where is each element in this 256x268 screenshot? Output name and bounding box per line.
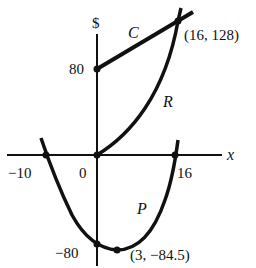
- point-root-neg10: [43, 152, 50, 159]
- point-p-intercept: [94, 241, 101, 248]
- y-axis-label: $: [92, 15, 100, 31]
- annotation-vertex: (3, −84.5): [130, 247, 190, 264]
- curve-label-r: R: [162, 93, 173, 110]
- point-vertex: [114, 247, 121, 254]
- point-intersection: [175, 18, 182, 25]
- x-axis-label: x: [226, 146, 234, 163]
- tick-16: 16: [177, 165, 193, 181]
- tick-0: 0: [79, 165, 87, 181]
- revenue-curve-r: [97, 8, 181, 155]
- tick-neg10: −10: [8, 165, 31, 181]
- point-origin: [94, 152, 101, 159]
- curve-label-p: P: [136, 200, 147, 217]
- tick-neg80: −80: [55, 245, 78, 261]
- tick-80: 80: [69, 61, 84, 77]
- annotation-intersection: (16, 128): [184, 27, 239, 44]
- cost-revenue-profit-chart: $ x C R P 80 −80 −10 0 16 (16, 128) (3, …: [0, 0, 256, 268]
- curve-label-c: C: [128, 24, 139, 41]
- point-root-16: [172, 152, 179, 159]
- point-y-intercept-c: [94, 66, 101, 73]
